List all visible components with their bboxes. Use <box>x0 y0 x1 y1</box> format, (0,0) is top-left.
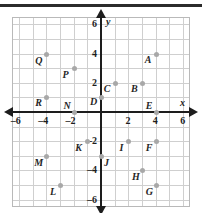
point-label-i: I <box>119 143 123 153</box>
point-label-r: R <box>35 98 42 108</box>
data-point-h <box>140 168 145 173</box>
y-tick-label: –6 <box>87 195 97 205</box>
point-label-l: L <box>50 187 56 197</box>
y-tick-label: 4 <box>92 49 97 59</box>
point-label-m: M <box>34 158 43 168</box>
data-point-g <box>154 183 159 188</box>
point-label-g: G <box>146 187 153 197</box>
y-tick-label: 2 <box>92 78 97 88</box>
x-tick-label: 2 <box>125 116 130 126</box>
coordinate-plane-figure: xy–6–4–2246642–2–4–6ABCDEFGHIJKLMNPQR <box>0 0 202 213</box>
data-point-i <box>126 139 131 144</box>
point-label-d: D <box>90 97 97 107</box>
point-label-b: B <box>131 84 138 94</box>
x-tick-label: –4 <box>38 116 48 126</box>
x-axis-label: x <box>180 98 185 108</box>
point-label-e: E <box>146 101 153 111</box>
data-point-e <box>154 110 159 115</box>
point-label-j: J <box>104 158 109 168</box>
data-point-r <box>44 95 49 100</box>
top-divider-rule <box>0 4 202 7</box>
y-axis-label: y <box>106 17 110 27</box>
point-label-k: K <box>75 143 82 153</box>
point-label-n: N <box>64 101 71 111</box>
data-point-q <box>44 52 49 57</box>
point-label-p: P <box>63 70 69 80</box>
data-point-m <box>44 154 49 159</box>
data-point-a <box>154 52 159 57</box>
data-point-c <box>113 81 118 86</box>
point-label-q: Q <box>35 56 42 66</box>
data-point-f <box>154 139 159 144</box>
y-axis <box>100 17 102 207</box>
point-label-a: A <box>145 55 152 65</box>
data-point-d <box>99 95 104 100</box>
point-label-c: C <box>104 84 111 94</box>
data-point-l <box>58 183 63 188</box>
plot-area: xy–6–4–2246642–2–4–6ABCDEFGHIJKLMNPQR <box>12 17 190 207</box>
y-axis-arrow-down <box>96 206 106 213</box>
data-point-n <box>72 110 77 115</box>
x-tick-label: –6 <box>11 116 21 126</box>
data-point-p <box>72 66 77 71</box>
x-tick-label: 6 <box>180 116 185 126</box>
point-label-f: F <box>146 143 153 153</box>
x-tick-label: 4 <box>153 116 158 126</box>
data-point-b <box>140 81 145 86</box>
y-tick-label: 6 <box>92 19 97 29</box>
y-tick-label: –4 <box>87 165 97 175</box>
point-label-h: H <box>132 172 140 182</box>
x-tick-label: –2 <box>66 116 76 126</box>
y-axis-arrow-up <box>96 9 106 18</box>
x-axis-arrow-right <box>189 107 198 117</box>
